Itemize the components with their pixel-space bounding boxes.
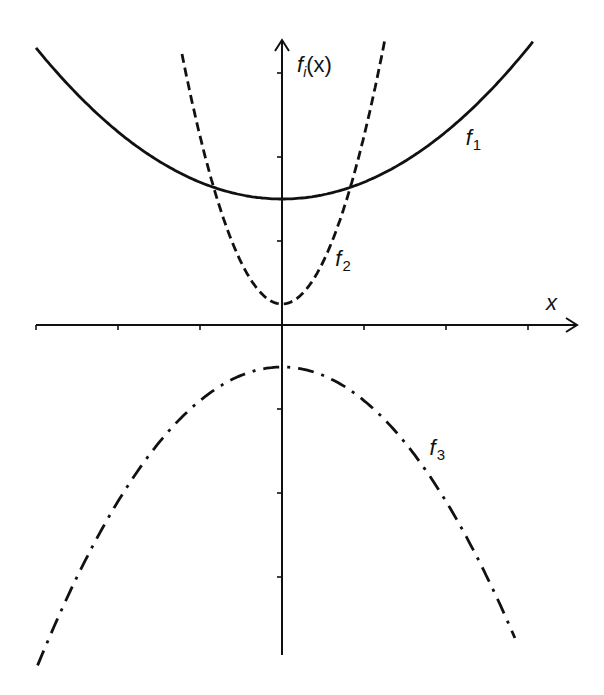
x-axis-label: x xyxy=(545,290,558,315)
curve-f3 xyxy=(38,367,515,665)
curves xyxy=(36,37,533,665)
y-axis-label: fi(x) xyxy=(297,52,332,80)
labels: f1f2f3fi(x)x xyxy=(297,52,558,463)
label-f1: f1 xyxy=(466,125,481,153)
curve-f2 xyxy=(182,37,385,304)
curve-f1 xyxy=(36,42,533,199)
label-f3: f3 xyxy=(430,435,445,463)
function-plot: f1f2f3fi(x)x xyxy=(0,0,604,695)
label-f2: f2 xyxy=(335,246,350,274)
